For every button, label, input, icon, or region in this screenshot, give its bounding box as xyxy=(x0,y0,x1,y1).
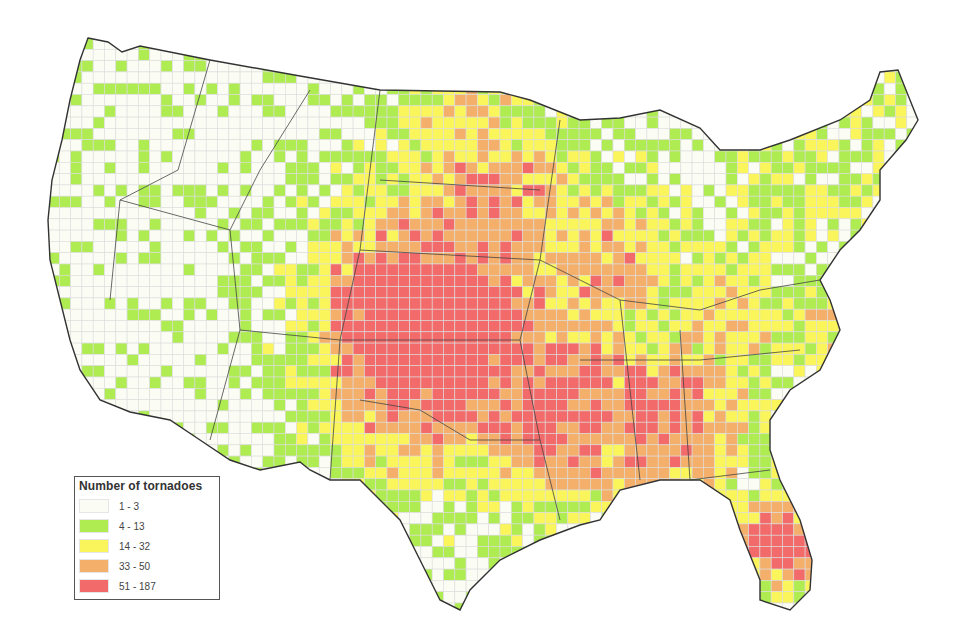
grid-cell xyxy=(613,230,624,241)
grid-cell xyxy=(410,343,421,354)
grid-cell xyxy=(410,614,421,625)
grid-cell xyxy=(285,547,296,558)
grid-cell xyxy=(240,230,251,241)
grid-cell xyxy=(331,162,342,173)
grid-cell xyxy=(534,467,545,478)
grid-cell xyxy=(715,264,726,275)
grid-cell xyxy=(726,422,737,433)
grid-cell xyxy=(896,400,907,411)
grid-cell xyxy=(534,580,545,591)
grid-cell xyxy=(229,196,240,207)
grid-cell xyxy=(263,72,274,83)
grid-cell xyxy=(410,434,421,445)
grid-cell xyxy=(93,117,104,128)
grid-cell xyxy=(828,445,839,456)
grid-cell xyxy=(737,490,748,501)
grid-cell xyxy=(138,162,149,173)
grid-cell xyxy=(387,196,398,207)
grid-cell xyxy=(749,253,760,264)
grid-cell xyxy=(590,230,601,241)
grid-cell xyxy=(263,524,274,535)
grid-cell xyxy=(850,366,861,377)
grid-cell xyxy=(172,400,183,411)
grid-cell xyxy=(229,332,240,343)
grid-cell xyxy=(229,558,240,569)
grid-cell xyxy=(545,411,556,422)
grid-cell xyxy=(387,456,398,467)
grid-cell xyxy=(229,38,240,49)
grid-cell xyxy=(421,467,432,478)
grid-cell xyxy=(590,185,601,196)
grid-cell xyxy=(274,253,285,264)
grid-cell xyxy=(421,479,432,490)
grid-cell xyxy=(466,309,477,320)
grid-cell xyxy=(511,535,522,546)
grid-cell xyxy=(568,569,579,580)
grid-cell xyxy=(896,128,907,139)
grid-cell xyxy=(828,219,839,230)
grid-cell xyxy=(896,208,907,219)
grid-cell xyxy=(184,185,195,196)
grid-cell xyxy=(398,366,409,377)
grid-cell xyxy=(421,513,432,524)
grid-cell xyxy=(557,61,568,72)
grid-cell xyxy=(873,106,884,117)
grid-cell xyxy=(873,117,884,128)
grid-cell xyxy=(421,275,432,286)
grid-cell xyxy=(816,592,827,603)
grid-cell xyxy=(545,287,556,298)
grid-cell xyxy=(658,162,669,173)
grid-cell xyxy=(636,208,647,219)
grid-cell xyxy=(285,501,296,512)
grid-cell xyxy=(579,580,590,591)
grid-cell xyxy=(692,174,703,185)
grid-cell xyxy=(760,614,771,625)
grid-cell xyxy=(218,275,229,286)
grid-cell xyxy=(523,513,534,524)
grid-cell xyxy=(647,174,658,185)
grid-cell xyxy=(364,479,375,490)
grid-cell xyxy=(579,445,590,456)
grid-cell xyxy=(251,445,262,456)
grid-cell xyxy=(195,388,206,399)
grid-cell xyxy=(783,400,794,411)
grid-cell xyxy=(670,434,681,445)
grid-cell xyxy=(138,230,149,241)
grid-cell xyxy=(48,128,59,139)
grid-cell xyxy=(127,445,138,456)
grid-cell xyxy=(218,298,229,309)
grid-cell xyxy=(93,162,104,173)
grid-cell xyxy=(749,524,760,535)
grid-cell xyxy=(545,298,556,309)
grid-cell xyxy=(602,219,613,230)
grid-cell xyxy=(116,174,127,185)
grid-cell xyxy=(760,241,771,252)
grid-cell xyxy=(285,332,296,343)
grid-cell xyxy=(184,151,195,162)
grid-cell xyxy=(285,524,296,535)
grid-cell xyxy=(489,174,500,185)
grid-cell xyxy=(873,332,884,343)
grid-cell xyxy=(319,501,330,512)
grid-cell xyxy=(466,445,477,456)
grid-cell xyxy=(828,456,839,467)
grid-cell xyxy=(218,128,229,139)
grid-cell xyxy=(670,422,681,433)
grid-cell xyxy=(534,422,545,433)
grid-cell xyxy=(500,128,511,139)
grid-cell xyxy=(636,49,647,60)
grid-cell xyxy=(658,411,669,422)
grid-cell xyxy=(511,467,522,478)
grid-cell xyxy=(500,456,511,467)
grid-cell xyxy=(489,83,500,94)
grid-cell xyxy=(715,287,726,298)
grid-cell xyxy=(161,275,172,286)
grid-cell xyxy=(127,208,138,219)
grid-cell xyxy=(805,490,816,501)
grid-cell xyxy=(251,513,262,524)
grid-cell xyxy=(590,445,601,456)
grid-cell xyxy=(737,61,748,72)
grid-cell xyxy=(150,614,161,625)
grid-cell xyxy=(387,241,398,252)
grid-cell xyxy=(715,400,726,411)
